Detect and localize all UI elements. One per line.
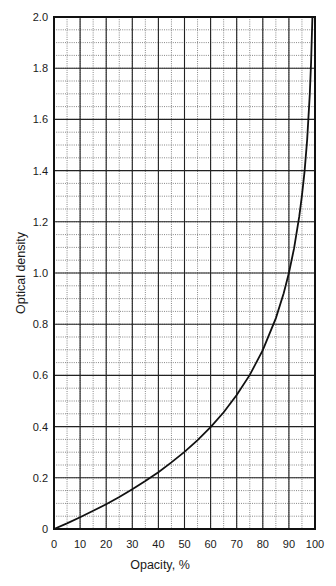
y-axis-title: Optical density (14, 231, 28, 314)
y-tick-label: 0 (42, 523, 48, 535)
x-axis-title: Opacity, % (130, 558, 190, 572)
y-tick-label: 1.4 (33, 165, 48, 177)
x-tick-label: 40 (152, 538, 164, 550)
y-tick-label: 0.2 (33, 472, 48, 484)
x-tick-label: 50 (178, 538, 190, 550)
y-tick-label: 2.0 (33, 11, 48, 23)
y-tick-label: 1.2 (33, 216, 48, 228)
y-tick-label: 0.6 (33, 369, 48, 381)
x-tick-label: 80 (257, 538, 269, 550)
x-tick-label: 20 (100, 538, 112, 550)
y-tick-label: 1.0 (33, 267, 48, 279)
x-tick-label: 30 (126, 538, 138, 550)
x-tick-label: 70 (231, 538, 243, 550)
y-tick-label: 1.6 (33, 113, 48, 125)
x-axis-tick-labels: 0102030405060708090100 (51, 538, 324, 550)
y-tick-label: 0.8 (33, 318, 48, 330)
x-tick-label: 0 (51, 538, 57, 550)
x-tick-label: 60 (204, 538, 216, 550)
y-axis-tick-labels: 00.20.40.60.81.01.21.41.61.82.0 (33, 11, 48, 535)
x-tick-label: 90 (283, 538, 295, 550)
x-tick-label: 100 (306, 538, 324, 550)
x-tick-label: 10 (74, 538, 86, 550)
optical-density-chart: 0102030405060708090100 00.20.40.60.81.01… (0, 0, 336, 586)
y-tick-label: 1.8 (33, 62, 48, 74)
y-tick-label: 0.4 (33, 421, 48, 433)
